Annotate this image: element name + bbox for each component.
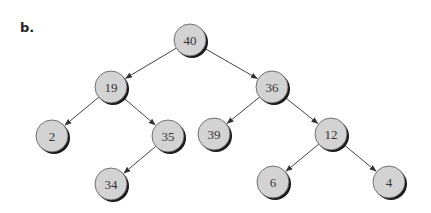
edge-arrow-12-to-4 bbox=[343, 144, 376, 171]
edge-arrow-36-to-39 bbox=[227, 97, 259, 123]
node-value: 34 bbox=[105, 177, 119, 192]
tree-edges bbox=[65, 48, 376, 173]
node-value: 40 bbox=[184, 33, 197, 48]
edge-arrow-19-to-2 bbox=[65, 97, 99, 125]
edge-arrow-40-to-19 bbox=[126, 48, 177, 78]
tree-node-40: 40 bbox=[174, 24, 208, 58]
node-value: 36 bbox=[266, 80, 280, 95]
edge-arrow-35-to-34 bbox=[124, 146, 156, 173]
tree-node-12: 12 bbox=[315, 118, 349, 152]
tree-nodes: 40193623539123464 bbox=[36, 24, 407, 202]
edge-arrow-12-to-6 bbox=[286, 144, 319, 171]
tree-node-35: 35 bbox=[152, 120, 186, 154]
node-value: 12 bbox=[325, 127, 338, 142]
node-value: 4 bbox=[386, 175, 393, 190]
node-value: 6 bbox=[270, 175, 277, 190]
tree-node-34: 34 bbox=[95, 168, 129, 202]
tree-node-6: 6 bbox=[257, 166, 291, 200]
binary-tree-diagram: 40193623539123464 bbox=[0, 0, 431, 213]
tree-node-39: 39 bbox=[198, 118, 232, 152]
node-value: 2 bbox=[49, 129, 56, 144]
tree-node-2: 2 bbox=[36, 120, 70, 154]
tree-node-19: 19 bbox=[95, 71, 129, 105]
node-value: 19 bbox=[105, 80, 118, 95]
node-value: 35 bbox=[162, 129, 175, 144]
edge-arrow-36-to-12 bbox=[285, 97, 318, 123]
tree-node-4: 4 bbox=[373, 166, 407, 200]
edge-arrow-40-to-36 bbox=[204, 48, 257, 79]
node-value: 39 bbox=[208, 127, 221, 142]
tree-node-36: 36 bbox=[256, 71, 290, 105]
edge-arrow-19-to-35 bbox=[123, 97, 155, 124]
